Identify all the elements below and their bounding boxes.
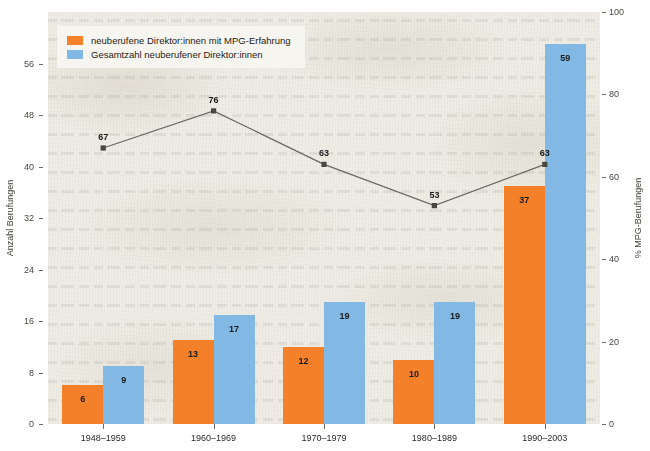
y-axis-right-tick-mark [602, 94, 606, 95]
bar-value-label: 6 [62, 394, 103, 404]
bar: 9 [103, 366, 144, 424]
y-axis-right-tick-label: 80 [609, 89, 619, 99]
y-axis-right-tick-mark [602, 259, 606, 260]
bar-value-label: 10 [393, 369, 434, 379]
bar-value-label: 17 [214, 324, 255, 334]
y-axis-left-tick-mark [39, 167, 43, 168]
y-axis-left-tick-mark [39, 218, 43, 219]
bar-value-label: 59 [545, 53, 586, 63]
x-axis-tick-mark [434, 424, 435, 429]
y-axis-left-tick-label: 24 [0, 265, 34, 275]
y-axis-right-tick-label: 40 [609, 254, 619, 264]
bar: 10 [393, 360, 434, 424]
bar: 6 [62, 385, 103, 424]
y-axis-right-tick-mark [602, 12, 606, 13]
percent-line-marker [432, 203, 437, 208]
legend-item-label: Gesamtzahl neuberufener Direktor:innen [91, 49, 263, 60]
y-axis-left-tick-label: 56 [0, 59, 34, 69]
y-axis-left-tick-mark [39, 373, 43, 374]
bar: 13 [173, 340, 214, 424]
x-axis-tick-label: 1970–1979 [301, 433, 346, 443]
y-axis-right-tick-mark [602, 342, 606, 343]
chart-legend: neuberufene Direktor:innen mit MPG-Erfah… [57, 26, 305, 68]
bar: 19 [434, 302, 475, 424]
y-axis-left-title: Anzahl Berufungen [5, 180, 15, 257]
y-axis-right-tick-label: 0 [609, 419, 614, 429]
y-axis-left-tick-label: 16 [0, 316, 34, 326]
percent-value-label: 63 [319, 148, 329, 158]
x-axis-tick-mark [545, 424, 546, 429]
x-axis-tick-label: 1960–1969 [191, 433, 236, 443]
y-axis-left-tick-label: 0 [0, 419, 34, 429]
y-axis-right-tick-mark [602, 177, 606, 178]
bar-value-label: 19 [434, 311, 475, 321]
y-axis-left-tick-label: 48 [0, 110, 34, 120]
percent-line-marker [321, 162, 326, 167]
x-axis-tick-mark [324, 424, 325, 429]
bar-value-label: 13 [173, 349, 214, 359]
percent-line-marker [211, 108, 216, 113]
x-axis-tick-label: 1948–1959 [81, 433, 126, 443]
y-axis-left-tick-label: 40 [0, 162, 34, 172]
y-axis-right-tick-label: 60 [609, 172, 619, 182]
bar-value-label: 9 [103, 375, 144, 385]
legend-item-label: neuberufene Direktor:innen mit MPG-Erfah… [91, 35, 291, 46]
y-axis-left-tick-mark [39, 64, 43, 65]
chart-page: 691317121910193759 6776635363 0816243240… [0, 0, 650, 451]
bar: 59 [545, 44, 586, 424]
bar: 17 [214, 315, 255, 424]
bar: 19 [324, 302, 365, 424]
x-axis-tick-mark [214, 424, 215, 429]
legend-color-swatch [67, 36, 83, 45]
percent-value-label: 63 [540, 148, 550, 158]
y-axis-left-tick-mark [39, 321, 43, 322]
legend-item: Gesamtzahl neuberufener Direktor:innen [67, 47, 291, 61]
y-axis-right-tick-label: 100 [609, 7, 624, 17]
y-axis-left-tick-mark [39, 424, 43, 425]
y-axis-left-tick-label: 8 [0, 368, 34, 378]
legend-color-swatch [67, 50, 83, 59]
plot-area: 691317121910193759 6776635363 [48, 12, 600, 424]
percent-value-label: 76 [209, 95, 219, 105]
bar-value-label: 12 [283, 356, 324, 366]
bar-value-label: 19 [324, 311, 365, 321]
percent-line-marker [101, 145, 106, 150]
y-axis-right-tick-label: 20 [609, 337, 619, 347]
bar: 37 [504, 186, 545, 424]
x-axis-tick-label: 1990–2003 [522, 433, 567, 443]
percent-value-label: 53 [429, 190, 439, 200]
bar: 12 [283, 347, 324, 424]
x-axis-tick-label: 1980–1989 [412, 433, 457, 443]
y-axis-right-title: % MPG-Berufungen [633, 178, 643, 259]
legend-item: neuberufene Direktor:innen mit MPG-Erfah… [67, 33, 291, 47]
bar-value-label: 37 [504, 195, 545, 205]
y-axis-left-tick-mark [39, 115, 43, 116]
x-axis-tick-mark [103, 424, 104, 429]
y-axis-left-tick-mark [39, 270, 43, 271]
percent-value-label: 67 [98, 132, 108, 142]
y-axis-right-tick-mark [602, 424, 606, 425]
